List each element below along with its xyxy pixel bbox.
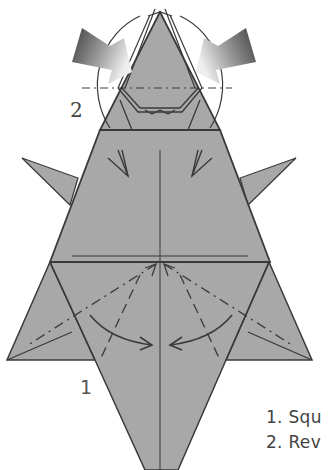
push-arrow-left-icon	[72, 28, 132, 84]
caption-step-1: 1. Squ	[266, 407, 322, 427]
caption-step-2: 2. Rev	[266, 432, 321, 452]
push-arrow-right-icon	[196, 28, 256, 84]
step-1-marker: 1	[80, 376, 92, 398]
origami-diagram	[0, 0, 329, 470]
step-2-marker: 2	[70, 98, 83, 122]
